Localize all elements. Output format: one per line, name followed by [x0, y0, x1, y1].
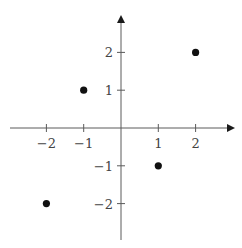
scatter-plot: −2−112 −2−112: [0, 0, 242, 248]
x-tick-label: 2: [191, 136, 199, 151]
y-axis-arrow-icon: [117, 15, 125, 23]
x-tick-label: 1: [154, 136, 162, 151]
x-tick-label: −1: [74, 136, 93, 151]
data-point: [155, 162, 162, 169]
data-point: [192, 49, 199, 56]
x-axis-arrow-icon: [227, 124, 235, 132]
y-tick-label: 1: [105, 83, 113, 98]
y-tick-label: −2: [94, 197, 113, 212]
x-axis: [10, 124, 235, 132]
x-tick-label: −2: [37, 136, 56, 151]
data-point: [43, 200, 50, 207]
data-point: [80, 87, 87, 94]
y-tick-label: 2: [105, 45, 113, 60]
y-tick-label: −1: [94, 159, 113, 174]
